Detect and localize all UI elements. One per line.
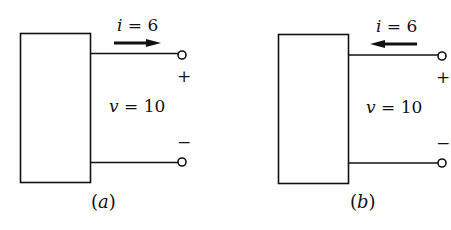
- current-label: i = 6: [376, 16, 417, 36]
- plus-sign: +: [177, 66, 191, 86]
- minus-sign: −: [177, 132, 191, 152]
- minus-sign: −: [436, 133, 450, 153]
- voltage-label: v = 10: [109, 96, 165, 116]
- voltage-label: v = 10: [366, 97, 422, 117]
- panel-caption: (b): [350, 191, 376, 212]
- panel-caption: (a): [91, 191, 116, 212]
- top-terminal: [178, 51, 186, 59]
- bottom-terminal: [178, 158, 186, 166]
- bottom-terminal: [438, 159, 446, 167]
- plus-sign: +: [436, 67, 450, 87]
- top-terminal: [438, 52, 446, 60]
- circuit-diagram: i = 6 + v = 10 − (a) i = 6 + v = 10 − (b…: [0, 0, 451, 230]
- current-label: i = 6: [117, 15, 158, 35]
